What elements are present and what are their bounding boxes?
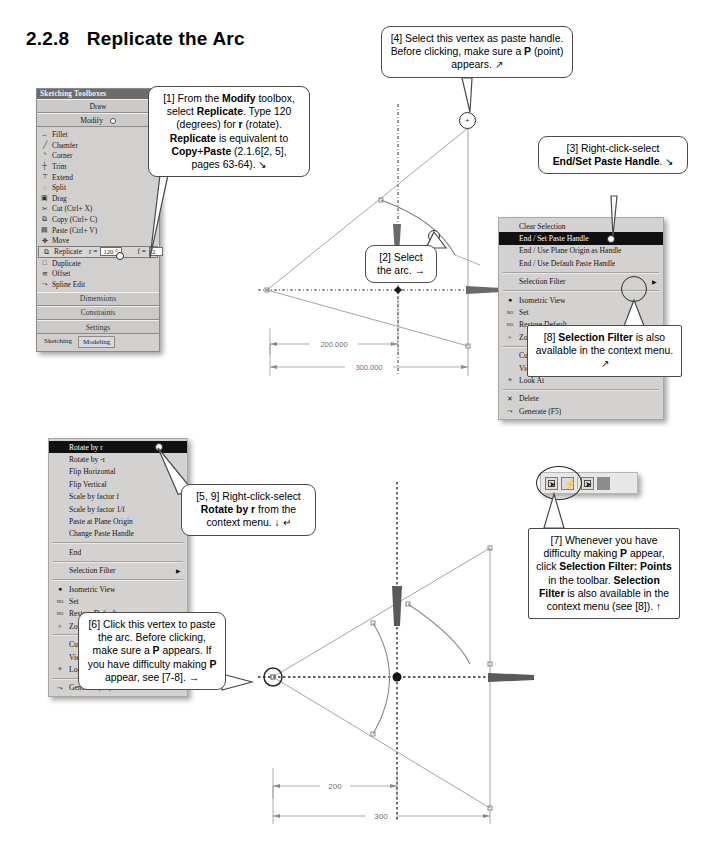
callout-3: [3] Right-click-select End/Set Paste Han… (538, 136, 688, 174)
menu-separator (53, 542, 183, 544)
menu-item-end-use-default-paste-handle[interactable]: End / Use Default Paste Handle (499, 257, 663, 269)
menu-item-label: Rotate by -r (69, 455, 105, 464)
callout-1-tail (120, 175, 240, 270)
menu-item-label: Clear Selection (519, 222, 566, 231)
menu-item-end-set-paste-handle[interactable]: End / Set Paste Handle (499, 232, 663, 244)
menu-item-icon: ISO (55, 611, 65, 616)
tool-label: Trim (52, 162, 67, 171)
menu-item-icon: ● (55, 585, 65, 593)
menu-item-label: Scale by factor 1/f (69, 505, 125, 514)
settings-band[interactable]: Settings (37, 320, 159, 334)
menu-item-paste-at-plane-origin[interactable]: Paste at Plane Origin (49, 515, 187, 527)
menu-item-label: Paste at Plane Origin (69, 517, 133, 526)
handle-marker-horizontal (488, 673, 534, 682)
dimension-200: 200 (273, 768, 397, 798)
handle-marker-horizontal (466, 286, 502, 294)
replicated-arc (408, 604, 470, 664)
page-title: 2.2.8 Replicate the Arc (26, 28, 245, 50)
menu-item-selection-filter[interactable]: Selection Filter▶ (49, 565, 187, 577)
menu-separator (53, 561, 183, 563)
dimensions-band[interactable]: Dimensions (37, 292, 159, 306)
origin-point[interactable] (394, 286, 402, 294)
tool-label: Fillet (52, 130, 68, 139)
menu-item-label: Generate (F5) (519, 407, 561, 416)
menu-item-icon: ⌖ (55, 665, 65, 673)
callout-6-tail (222, 668, 266, 698)
tool-item-spline-edit[interactable]: ⤳Spline Edit (37, 279, 159, 290)
menu-item-label: End / Use Default Paste Handle (519, 259, 615, 268)
callout-8-text: [8] Selection Filter is also available i… (536, 332, 673, 369)
tool-item-corner[interactable]: ⌝Corner (37, 151, 159, 162)
original-arc[interactable] (373, 623, 390, 734)
menu-separator (53, 579, 183, 581)
selection-filter-faces-button[interactable]: ➤ (581, 477, 594, 490)
tool-item-fillet[interactable]: ⌢Fillet (37, 129, 159, 140)
tool-label: Paste (Ctrl+ V) (52, 226, 97, 235)
callout-4-text: [4] Select this vertex as paste handle. … (391, 33, 564, 70)
tool-label: Offset (52, 269, 70, 278)
menu-item-end-use-plane-origin-as-handle[interactable]: End / Use Plane Origin as Handle (499, 245, 663, 257)
menu-item-delete[interactable]: ✕Delete (499, 393, 663, 405)
selection-filter-bodies-button[interactable] (597, 477, 610, 490)
callout-7-text: [7] Whenever you have difficulty making … (536, 535, 672, 612)
menu-item-label: Set (69, 597, 79, 606)
callout-2: [2] Select the arc. → (365, 245, 437, 283)
menu-item-label: End / Use Plane Origin as Handle (519, 246, 622, 255)
menu-item-label: Flip Vertical (69, 480, 107, 489)
tool-item-offset[interactable]: ≋Offset (37, 269, 159, 280)
menu-item-label: Delete (519, 394, 539, 403)
lower-construction-line (273, 677, 490, 808)
menu-item-set[interactable]: ISOSet (49, 595, 187, 607)
menu-item-label: Selection Filter (69, 566, 116, 575)
callout-6-text: [6] Click this vertex to paste the arc. … (88, 619, 217, 683)
tool-glyph-icon: □ (40, 259, 49, 267)
toolbox-tab-modeling[interactable]: Modeling (78, 336, 115, 348)
tool-item-chamfer[interactable]: ╱Chamfer (37, 140, 159, 151)
modify-section-band[interactable]: Modify (37, 113, 159, 127)
menu-item-label: Rotate by r (69, 443, 103, 452)
tool-label: Corner (52, 151, 73, 160)
tool-label: Copy (Ctrl+ C) (52, 215, 97, 224)
tool-label: Chamfer (52, 141, 78, 150)
tool-glyph-icon: ▤ (40, 226, 49, 234)
origin-point[interactable] (393, 673, 402, 682)
menu-item-label: End / Set Paste Handle (519, 234, 589, 243)
tool-glyph-icon: ⊤ (40, 173, 49, 181)
tool-glyph-icon: ◌ (40, 184, 49, 192)
menu-item-generate-f5[interactable]: ⤳Generate (F5) (499, 405, 663, 417)
tool-label: Split (52, 183, 66, 192)
menu-separator (503, 389, 659, 391)
menu-item-end[interactable]: End (49, 546, 187, 558)
draw-section-band[interactable]: Draw (37, 99, 159, 113)
tool-item-trim[interactable]: ┼Trim (37, 161, 159, 172)
menu-item-label: End (69, 548, 81, 557)
dimension-200-label: 200 (328, 782, 342, 791)
selection-filter-submenu-ring[interactable] (621, 276, 647, 302)
submenu-arrow-icon: ▶ (652, 278, 657, 285)
toolbox-tab-sketching[interactable]: Sketching (40, 336, 76, 348)
submenu-arrow-icon: ▶ (176, 567, 181, 574)
dimension-200: 200.000 (270, 297, 398, 354)
callout-4-tail (450, 78, 500, 118)
menu-item-label: Selection Filter (519, 277, 566, 286)
modify-radio-icon (110, 118, 116, 124)
page-title-number: 2.2.8 (26, 28, 69, 49)
window-titlebar: Sketching Toolboxes (37, 89, 159, 99)
menu-separator (503, 272, 659, 274)
menu-item-icon: ⤳ (55, 684, 65, 692)
constraints-band[interactable]: Constraints (37, 306, 159, 320)
menu-item-scale-by-factor-1-f[interactable]: Scale by factor 1/f (49, 503, 187, 515)
tool-glyph-icon: ≋ (40, 270, 49, 278)
callout-2-text: [2] Select the arc. → (377, 252, 425, 276)
menu-item-change-paste-handle[interactable]: Change Paste Handle (49, 528, 187, 540)
menu-item-label: Look At (519, 376, 544, 385)
menu-item-isometric-view[interactable]: ●Isometric View (49, 583, 187, 595)
menu-item-clear-selection[interactable]: Clear Selection (499, 220, 663, 232)
callout-5: [5, 9] Right-click-select Rotate by r fr… (181, 484, 316, 536)
menu-item-icon: ⤳ (505, 407, 515, 415)
upper-construction-line (273, 548, 490, 677)
menu-item-label: Change Paste Handle (69, 529, 134, 538)
tool-glyph-icon: ✥ (40, 237, 49, 245)
callout-1-text: [1] From the Modify toolbox, select Repl… (163, 93, 295, 170)
replicate-label: Replicate (54, 247, 82, 256)
